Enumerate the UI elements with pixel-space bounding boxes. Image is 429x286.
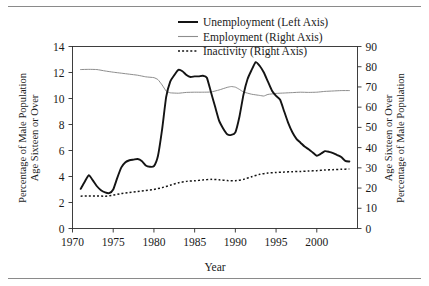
legend-label-0: Unemployment (Left Axis) (203, 16, 328, 29)
tick-label-left-6: 6 (59, 145, 65, 157)
tick-label-right-0: 0 (366, 223, 372, 235)
x-axis-ticks (73, 229, 317, 233)
tick-label-x-1995: 1995 (265, 236, 288, 248)
tick-label-x-1975: 1975 (102, 236, 125, 248)
right-axis-tick-labels: 0102030405060708090 (366, 41, 378, 235)
tick-label-x-2000: 2000 (305, 236, 328, 248)
tick-label-x-1970: 1970 (61, 236, 84, 248)
tick-label-right-30: 30 (366, 162, 378, 174)
x-axis-tick-labels: 1970197519801985199019952000 (61, 236, 329, 248)
right-axis-title-line2: Age Sixteen or Over (383, 94, 394, 181)
series-line-unemployment (81, 62, 350, 193)
tick-label-right-70: 70 (366, 81, 378, 93)
series-line-inactivity (81, 169, 350, 196)
figure-container: 02468101214 0102030405060708090 19701975… (0, 0, 429, 286)
right-axis-title-line1: Percentage of Male Population (395, 72, 406, 203)
legend-label-2: Inactivity (Right Axis) (203, 45, 307, 58)
tick-label-right-40: 40 (366, 142, 378, 154)
left-axis-title-line1: Percentage of Male Population (17, 72, 28, 203)
right-axis-ticks (358, 47, 362, 229)
tick-label-left-2: 2 (59, 197, 65, 209)
tick-label-x-1985: 1985 (183, 236, 206, 248)
tick-label-x-1980: 1980 (142, 236, 165, 248)
series-line-employment (81, 69, 350, 96)
tick-label-left-12: 12 (53, 67, 65, 79)
chart-legend: Unemployment (Left Axis)Employment (Righ… (178, 16, 328, 58)
tick-label-left-4: 4 (59, 171, 65, 183)
tick-label-right-80: 80 (366, 61, 378, 73)
tick-label-right-10: 10 (366, 202, 378, 214)
left-axis-ticks (69, 47, 73, 229)
left-axis-tick-labels: 02468101214 (53, 41, 65, 235)
plot-frame (73, 47, 358, 229)
tick-label-right-50: 50 (366, 121, 378, 133)
tick-label-x-1990: 1990 (224, 236, 247, 248)
chart-canvas: 02468101214 0102030405060708090 19701975… (0, 0, 429, 286)
tick-label-right-20: 20 (366, 182, 378, 194)
tick-label-left-8: 8 (59, 119, 65, 131)
left-axis-title-line2: Age Sixteen or Over (29, 94, 40, 181)
tick-label-right-60: 60 (366, 101, 378, 113)
tick-label-left-0: 0 (59, 223, 65, 235)
legend-label-1: Employment (Right Axis) (203, 31, 323, 44)
tick-label-left-14: 14 (53, 41, 65, 53)
x-axis-title: Year (204, 261, 225, 273)
tick-label-right-90: 90 (366, 41, 378, 53)
tick-label-left-10: 10 (53, 93, 65, 105)
